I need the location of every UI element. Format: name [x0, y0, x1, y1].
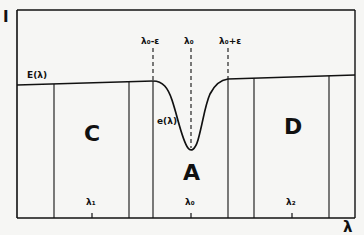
region-label-c: C	[84, 121, 100, 146]
marker-label-lambda0-minus-eps: λ₀-ε	[141, 36, 159, 46]
marker-dashed-lines	[153, 48, 228, 148]
continuum-label: E(λ)	[27, 70, 47, 80]
region-label-a: A	[183, 160, 200, 185]
continuum-curve	[17, 75, 355, 85]
region-label-d: D	[284, 114, 302, 139]
x-tick-label-lambda0: λ₀	[185, 197, 195, 207]
x-tick-label-lambda1: λ₁	[86, 197, 96, 207]
x-axis-label: λ	[343, 218, 353, 235]
line-profile-label: e(λ)	[157, 116, 177, 126]
spectral-line-diagram: I λ E(λ) e(λ) λ₀-ε λ₀ λ₀+ε C A D λ₁ λ₀ λ…	[0, 0, 364, 235]
marker-label-lambda0-plus-eps: λ₀+ε	[219, 36, 241, 46]
x-tick-label-lambda2: λ₂	[286, 197, 296, 207]
marker-label-lambda0: λ₀	[184, 36, 194, 46]
y-axis-label: I	[3, 8, 9, 26]
